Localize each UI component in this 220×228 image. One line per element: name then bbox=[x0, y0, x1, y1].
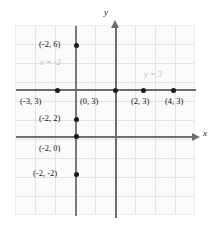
x-axis bbox=[16, 136, 196, 138]
point-marker bbox=[74, 117, 79, 122]
point-label-0-3: (0, 3) bbox=[80, 96, 98, 106]
point-marker bbox=[74, 43, 79, 48]
y-axis-arrow-icon bbox=[111, 20, 119, 28]
point-marker bbox=[113, 88, 118, 93]
annotation-x-equals-negative-2: x = -2 bbox=[40, 57, 61, 67]
y-axis-label: y bbox=[104, 7, 108, 17]
point-label-neg2-neg2: (-2, -2) bbox=[33, 168, 57, 178]
point-label-neg3-3: (-3, 3) bbox=[20, 96, 41, 106]
figure-canvas: y x x = -2 y = 3 (-2, 6) (-2, 2) (-2, 0)… bbox=[0, 0, 220, 228]
point-marker bbox=[141, 88, 146, 93]
x-axis-arrow-icon bbox=[192, 133, 200, 141]
annotation-y-equals-3: y = 3 bbox=[144, 69, 162, 79]
point-marker bbox=[74, 134, 79, 139]
point-label-neg2-0: (-2, 0) bbox=[39, 143, 60, 153]
point-marker bbox=[171, 88, 176, 93]
y-axis bbox=[115, 26, 117, 218]
point-label-neg2-2: (-2, 2) bbox=[39, 113, 60, 123]
x-axis-label: x bbox=[203, 128, 207, 138]
point-marker bbox=[55, 88, 60, 93]
point-label-2-3: (2, 3) bbox=[131, 96, 149, 106]
point-label-neg2-6: (-2, 6) bbox=[39, 39, 60, 49]
line-y-equals-3 bbox=[16, 89, 196, 91]
point-label-4-3: (4, 3) bbox=[165, 96, 183, 106]
point-marker bbox=[74, 172, 79, 177]
